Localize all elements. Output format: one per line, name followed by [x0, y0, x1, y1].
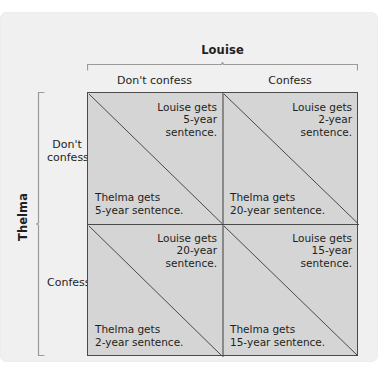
matrix-cell: Louise gets 15-year sentence. Thelma get…	[223, 224, 359, 357]
figure-panel: Louise Don't confess Confess Thelma Don'…	[0, 12, 378, 362]
payoff-matrix: Louise gets 5-year sentence. Thelma gets…	[87, 92, 358, 356]
column-label-dont-confess: Don't confess	[87, 74, 222, 87]
payoff-louise: Louise gets 20-year sentence.	[157, 232, 217, 269]
payoff-thelma: Thelma gets 20-year sentence.	[230, 191, 325, 216]
matrix-cell: Louise gets 20-year sentence. Thelma get…	[88, 224, 224, 357]
column-group-title: Louise	[87, 43, 358, 57]
payoff-louise: Louise gets 2-year sentence.	[292, 101, 352, 138]
matrix-cell: Louise gets 2-year sentence. Thelma gets…	[223, 93, 359, 225]
payoff-thelma: Thelma gets 15-year sentence.	[230, 323, 325, 348]
column-label-confess: Confess	[222, 74, 358, 87]
payoff-louise: Louise gets 15-year sentence.	[292, 232, 352, 269]
row-label-dont-confess: Don't confess	[47, 139, 87, 164]
row-label-confess: Confess	[47, 277, 87, 290]
matrix-cell: Louise gets 5-year sentence. Thelma gets…	[88, 93, 224, 225]
column-group-bracket	[87, 62, 358, 71]
row-group-title: Thelma	[16, 182, 30, 252]
row-group-bracket	[36, 92, 45, 356]
payoff-thelma: Thelma gets 2-year sentence.	[95, 323, 183, 348]
payoff-louise: Louise gets 5-year sentence.	[157, 101, 217, 138]
payoff-thelma: Thelma gets 5-year sentence.	[95, 191, 183, 216]
